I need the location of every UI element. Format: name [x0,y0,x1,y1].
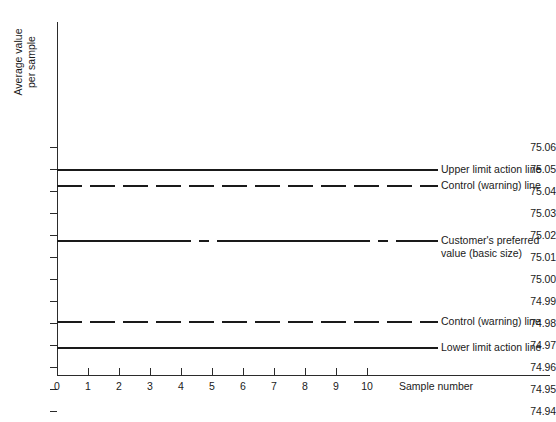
x-axis-line [57,375,550,376]
y-tick-mark [50,411,57,412]
control-chart: Average value per sample 75.06 75.05 75.… [0,0,556,422]
x-tick-mark [243,368,244,375]
y-tick-mark [50,367,57,368]
lower-control-warning-line [57,321,438,323]
y-tick-mark [50,147,57,148]
x-tick-mark [150,368,151,375]
upper-limit-action-line [57,169,438,171]
y-tick-label: 74.94 [512,406,556,417]
lower-limit-action-line [57,347,438,349]
upper-control-warning-line [57,185,438,187]
x-tick-label: 4 [168,381,194,392]
x-tick-mark [367,368,368,375]
x-tick-label: 2 [106,381,132,392]
x-tick-label: 9 [323,381,349,392]
y-tick-label: 75.03 [512,208,556,219]
x-tick-label: 8 [292,381,318,392]
x-tick-label: 10 [354,381,380,392]
x-tick-mark [274,368,275,375]
x-tick-label: 0 [44,381,70,392]
x-tick-label: 6 [230,381,256,392]
y-tick-mark [50,279,57,280]
y-tick-mark [50,257,57,258]
x-tick-mark [305,368,306,375]
y-tick-mark [50,213,57,214]
y-tick-mark [50,235,57,236]
annotation-upper-control-warning-line: Control (warning) line [441,179,541,192]
y-tick-label: 74.96 [512,362,556,373]
customer-preferred-value-line [57,240,438,242]
x-tick-mark [119,368,120,375]
x-tick-label: 3 [137,381,163,392]
y-tick-mark [50,323,57,324]
x-axis-title: Sample number [399,381,473,392]
annotation-upper-limit-action-line: Upper limit action line [441,163,541,176]
y-tick-mark [50,301,57,302]
y-tick-mark [50,191,57,192]
y-tick-mark [50,169,57,170]
y-tick-label: 74.99 [512,296,556,307]
annotation-lower-limit-action-line: Lower limit action line [441,341,541,354]
y-tick-mark [50,345,57,346]
y-tick-label: 74.95 [512,384,556,395]
y-tick-label: 75.06 [512,142,556,153]
x-tick-label: 7 [261,381,287,392]
x-tick-label: 5 [199,381,225,392]
x-tick-mark [57,368,58,375]
y-axis-title: Average value per sample [12,14,42,110]
annotation-customer-preferred-value: Customer's preferred value (basic size) [441,234,539,259]
x-tick-label: 1 [75,381,101,392]
annotation-lower-control-warning-line: Control (warning) line [441,315,541,328]
y-tick-label: 75.00 [512,274,556,285]
x-tick-mark [88,368,89,375]
x-tick-mark [181,368,182,375]
x-tick-mark [212,368,213,375]
x-tick-mark [336,368,337,375]
